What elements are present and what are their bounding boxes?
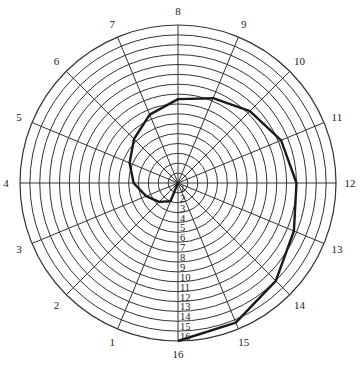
spoke-label-12: 12 [345,177,356,189]
bottom-spoke-label: 16 [173,348,185,360]
spoke-label-6: 6 [54,55,60,67]
spoke-label-5: 5 [16,111,22,123]
spoke-label-3: 3 [16,243,22,255]
ring-labels: 12345678910111213141516 [180,183,191,342]
spoke-label-2: 2 [54,299,60,311]
spoke-label-10: 10 [294,55,306,67]
spoke-label-1: 1 [109,336,115,348]
spoke-label-8: 8 [175,5,181,17]
spoke-2 [66,183,178,295]
spoke-6 [66,71,178,183]
spoke-label-9: 9 [241,18,247,30]
spoke-label-15: 15 [238,336,250,348]
spoke-label-7: 7 [109,18,115,30]
spoke-label-11: 11 [332,111,343,123]
spoke-10 [178,71,290,183]
spoke-label-4: 4 [3,177,9,189]
spoke-14 [178,183,290,295]
polar-spiral-chart: 123456789101112131415 123456789101112131… [0,0,363,370]
spoke-label-14: 14 [294,299,306,311]
spoke-label-13: 13 [331,243,343,255]
